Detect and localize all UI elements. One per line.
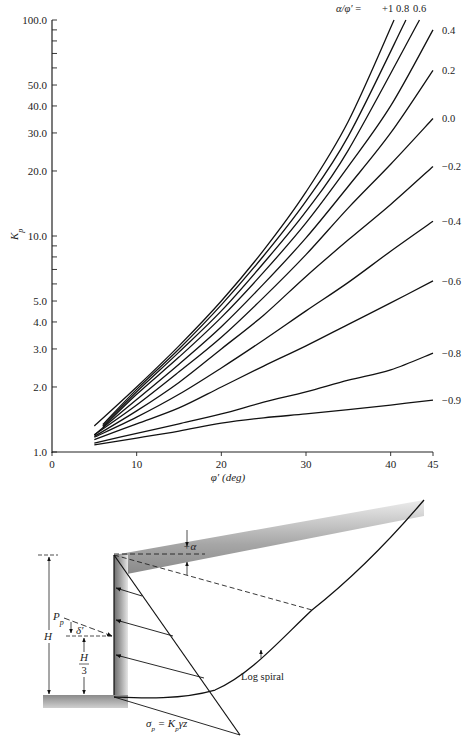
x-ticks: 01020304045 (49, 452, 439, 470)
alpha-label: +α (183, 540, 196, 552)
stress-label: σp = Kpγz (146, 717, 188, 733)
legend-title: α/φ′ = (336, 3, 361, 14)
y-tick-label: 5.0 (33, 295, 47, 307)
y-tick-label: 100.0 (22, 14, 47, 26)
curve-label: −0.4 (442, 216, 462, 227)
y-tick-label: 3.0 (33, 343, 47, 355)
kp-curve (94, 400, 433, 445)
curve-labels: +10.80.60.40.20.0−0.2−0.4−0.6−0.8−0.9 (382, 3, 462, 406)
lever-numerator: H (79, 651, 89, 663)
y-tick-label: 1.0 (33, 446, 47, 458)
kp-chart: 1.02.03.04.05.010.020.030.040.050.0100.0… (8, 3, 462, 484)
failure-plane-dashed (114, 555, 312, 610)
kp-curve (94, 20, 394, 426)
height-label: H (43, 630, 53, 642)
kp-curve (94, 166, 433, 436)
y-tick-label: 20.0 (28, 165, 48, 177)
y-tick-label: 10.0 (28, 230, 48, 242)
kp-curve (94, 281, 433, 440)
curve-label: −0.2 (442, 161, 461, 172)
y-tick-label: 30.0 (28, 127, 48, 139)
lever-denominator: 3 (81, 665, 86, 676)
x-tick-label: 30 (301, 458, 313, 470)
curve-label: 0.2 (442, 65, 455, 76)
passive-force-label: Pp (52, 610, 64, 627)
kp-curve (94, 70, 433, 435)
curve-label: 0.6 (413, 3, 426, 14)
backfill-surface (114, 500, 424, 574)
y-tick-label: 40.0 (28, 100, 48, 112)
wall (114, 555, 128, 697)
curve-label: 0.4 (442, 25, 456, 36)
kp-curves (94, 20, 433, 445)
kp-curve (103, 20, 420, 426)
y-axis-title: Kp (8, 229, 25, 241)
y-tick-label: 2.0 (33, 381, 47, 393)
x-tick-label: 40 (385, 458, 397, 470)
pressure-diagram-edge (114, 555, 240, 735)
kp-curve (103, 30, 433, 428)
figure-canvas: 1.02.03.04.05.010.020.030.040.050.0100.0… (0, 0, 466, 736)
pressure-arrow-icon (116, 655, 204, 678)
curve-label: −0.6 (442, 276, 461, 287)
x-tick-label: 10 (131, 458, 143, 470)
x-tick-label: 20 (216, 458, 228, 470)
retaining-wall-diagram: +α H Pp δ′ H 3 Log spiral σp (38, 500, 424, 735)
log-spiral-label: Log spiral (241, 671, 284, 682)
y-tick-label: 4.0 (33, 316, 47, 328)
curve-label: +1 (382, 3, 393, 14)
x-tick-label: 45 (428, 458, 440, 470)
delta-label: δ′ (76, 624, 84, 636)
kp-curve (103, 20, 406, 425)
curve-label: 0.0 (442, 113, 455, 124)
curve-label: 0.8 (396, 3, 409, 14)
x-tick-label: 0 (49, 458, 55, 470)
curve-label: −0.9 (442, 395, 461, 406)
curve-label: −0.8 (442, 348, 461, 359)
y-tick-label: 50.0 (28, 79, 48, 91)
x-axis-title: φ′ (deg) (211, 471, 246, 484)
